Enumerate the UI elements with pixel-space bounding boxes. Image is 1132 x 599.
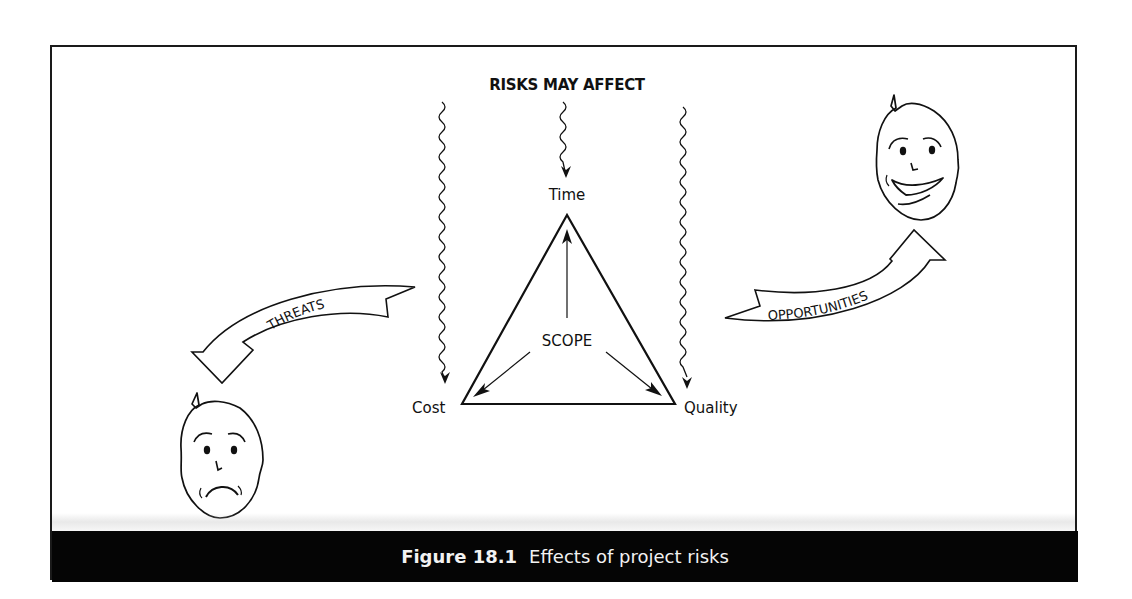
scope-triangle xyxy=(462,215,675,404)
figure-caption: Figure 18.1 Effects of project risks xyxy=(52,531,1078,582)
wavy-arrow-time xyxy=(560,102,571,178)
happy-face-icon xyxy=(876,95,958,220)
scope-label: SCOPE xyxy=(542,332,592,350)
caption-text: Effects of project risks xyxy=(529,546,729,567)
wavy-arrow-quality xyxy=(680,107,692,389)
risks-heading: RISKS MAY AFFECT xyxy=(489,76,646,94)
threats-arrow: THREATS xyxy=(192,286,415,383)
vertex-label-time: Time xyxy=(548,186,586,204)
sad-face-icon xyxy=(181,393,263,518)
vertex-label-quality: Quality xyxy=(684,399,738,417)
opportunities-arrow: OPPORTUNITIES xyxy=(725,230,945,323)
scan-shadow-band xyxy=(52,513,1075,531)
scope-arrows xyxy=(473,229,662,397)
caption-number: Figure 18.1 xyxy=(401,546,517,567)
project-risks-diagram: RISKS MAY AFFECT Time Cost Quality SCOPE… xyxy=(0,0,1132,599)
wavy-arrow-cost xyxy=(439,102,450,384)
vertex-label-cost: Cost xyxy=(412,399,445,417)
